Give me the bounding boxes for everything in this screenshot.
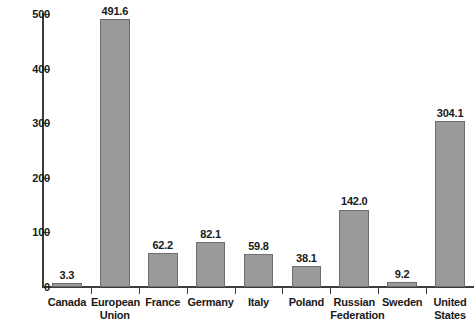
y-tick-label: 500 bbox=[14, 9, 50, 20]
category-label: Poland bbox=[282, 296, 330, 309]
category-label-line: Italy bbox=[235, 296, 283, 309]
category-label-line: Canada bbox=[43, 296, 91, 309]
y-tick-label: 100 bbox=[14, 227, 50, 238]
x-tick-mark bbox=[378, 288, 379, 294]
category-label-line: United bbox=[426, 296, 474, 309]
category-label-line: Russian bbox=[330, 296, 378, 309]
category-label: Canada bbox=[43, 296, 91, 309]
y-tick-label-row: 100 bbox=[0, 227, 50, 238]
bar-value-label: 142.0 bbox=[330, 195, 378, 207]
y-axis-line bbox=[42, 13, 44, 288]
bar bbox=[52, 283, 82, 287]
x-tick-mark bbox=[330, 288, 331, 294]
x-tick-mark bbox=[235, 288, 236, 294]
bar bbox=[435, 121, 465, 287]
category-label-line: States bbox=[426, 309, 474, 322]
bar bbox=[339, 210, 369, 288]
y-tick-label: 0 bbox=[14, 282, 50, 293]
category-label: UnitedStates bbox=[426, 296, 474, 322]
bar-value-label: 9.2 bbox=[378, 268, 426, 280]
bar bbox=[292, 266, 322, 287]
bar-chart: 0100200300400500 3.3491.662.282.159.838.… bbox=[0, 0, 476, 326]
x-tick-mark bbox=[139, 288, 140, 294]
category-label-line: Germany bbox=[187, 296, 235, 309]
bar-value-label: 59.8 bbox=[235, 240, 283, 252]
bar-value-label: 62.2 bbox=[139, 239, 187, 251]
category-label: Germany bbox=[187, 296, 235, 309]
category-label-line: Federation bbox=[330, 309, 378, 322]
x-tick-mark bbox=[426, 288, 427, 294]
category-label-line: Sweden bbox=[378, 296, 426, 309]
y-tick-label: 400 bbox=[14, 64, 50, 75]
bar bbox=[196, 242, 226, 287]
bar-value-label: 3.3 bbox=[43, 269, 91, 281]
category-label-line: Poland bbox=[282, 296, 330, 309]
bar bbox=[148, 253, 178, 287]
x-tick-mark bbox=[282, 288, 283, 294]
bar bbox=[100, 19, 130, 287]
category-label: France bbox=[139, 296, 187, 309]
bar bbox=[387, 282, 417, 287]
y-tick-label-row: 300 bbox=[0, 118, 50, 129]
category-label-line: France bbox=[139, 296, 187, 309]
y-tick-label-row: 200 bbox=[0, 173, 50, 184]
x-tick-mark bbox=[91, 288, 92, 294]
x-tick-mark bbox=[187, 288, 188, 294]
bar-value-label: 491.6 bbox=[91, 5, 139, 17]
y-tick-label-row: 400 bbox=[0, 64, 50, 75]
bar-value-label: 38.1 bbox=[282, 252, 330, 264]
category-label: RussianFederation bbox=[330, 296, 378, 322]
category-label-line: Union bbox=[91, 309, 139, 322]
bar-value-label: 82.1 bbox=[187, 228, 235, 240]
y-tick-label: 300 bbox=[14, 118, 50, 129]
y-tick-label-row: 0 bbox=[0, 282, 50, 293]
category-label-line: European bbox=[91, 296, 139, 309]
category-label: EuropeanUnion bbox=[91, 296, 139, 322]
y-tick-label: 200 bbox=[14, 173, 50, 184]
category-label: Sweden bbox=[378, 296, 426, 309]
y-tick-label-row: 500 bbox=[0, 9, 50, 20]
bar bbox=[244, 254, 274, 287]
bar-value-label: 304.1 bbox=[426, 107, 474, 119]
category-label: Italy bbox=[235, 296, 283, 309]
